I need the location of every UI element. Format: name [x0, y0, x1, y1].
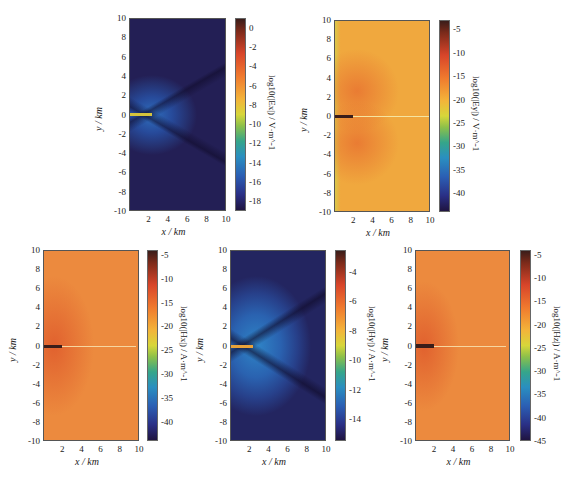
x-tick-label: 8: [483, 445, 499, 454]
y-axis-label: y / km: [379, 338, 390, 362]
y-tick-label: 6: [18, 284, 40, 293]
heatmap-hx: [43, 250, 139, 441]
y-tick-label: -6: [104, 168, 126, 177]
colorbar-ex: [235, 18, 246, 211]
colorbar-hy: [335, 250, 346, 441]
y-tick-label: -10: [18, 437, 40, 446]
y-tick-label: 0: [205, 342, 227, 351]
y-tick-label: 8: [390, 265, 412, 274]
y-tick-label: 4: [18, 303, 40, 312]
y-tick-label: 8: [18, 265, 40, 274]
colorbar-tick-label: -5: [453, 25, 461, 34]
colorbar-tick-label: -12: [249, 139, 261, 148]
y-tick-label: -4: [18, 380, 40, 389]
x-tick-label: 2: [54, 445, 70, 454]
colorbar-tick-label: -10: [249, 120, 261, 129]
x-tick-label: 10: [502, 445, 518, 454]
y-tick-label: 2: [18, 322, 40, 331]
y-tick-label: -2: [309, 131, 331, 140]
colorbar-tick-label: -18: [249, 197, 261, 206]
y-tick-label: 8: [309, 35, 331, 44]
y-tick-label: 0: [309, 112, 331, 121]
x-tick-label: 8: [403, 216, 419, 225]
x-tick-label: 6: [464, 445, 480, 454]
x-axis-label: x / km: [162, 226, 186, 237]
colorbar-tick-label: -20: [534, 321, 546, 330]
colorbar-hx: [147, 250, 158, 441]
y-tick-label: -10: [309, 208, 331, 217]
x-tick-label: 2: [140, 215, 156, 224]
colorbar-label: log10(|Ey|) / V·m^-1: [471, 76, 481, 151]
colorbar-label: log10(|Hz|) / A·m^-1: [552, 306, 562, 381]
y-tick-label: 10: [390, 246, 412, 255]
y-tick-label: -4: [205, 380, 227, 389]
y-tick-label: 4: [104, 72, 126, 81]
y-axis-label: y / km: [194, 338, 205, 362]
y-axis-label: y / km: [7, 338, 18, 362]
colorbar-tick-label: -6: [249, 82, 257, 91]
heatmap-hz: [415, 250, 510, 441]
colorbar-tick-label: -12: [349, 386, 361, 395]
y-tick-label: 8: [205, 265, 227, 274]
colorbar-tick-label: 0: [249, 24, 254, 33]
y-tick-label: 6: [309, 54, 331, 63]
y-tick-label: -8: [18, 418, 40, 427]
colorbar-tick-label: -20: [161, 322, 173, 331]
x-tick-label: 8: [299, 445, 315, 454]
y-tick-label: -4: [390, 380, 412, 389]
x-tick-label: 6: [280, 445, 296, 454]
x-tick-label: 6: [179, 215, 195, 224]
colorbar-tick-label: -15: [453, 72, 465, 81]
x-tick-label: 2: [426, 445, 442, 454]
y-tick-label: 10: [205, 246, 227, 255]
colorbar-tick-label: -15: [161, 299, 173, 308]
colorbar-tick-label: -35: [534, 390, 546, 399]
y-tick-label: -6: [309, 170, 331, 179]
colorbar-tick-label: -40: [161, 418, 173, 427]
heatmap-ex: [129, 18, 226, 211]
colorbar-tick-label: -16: [249, 178, 261, 187]
y-tick-label: 2: [390, 322, 412, 331]
y-tick-label: -2: [18, 361, 40, 370]
x-tick-label: 2: [241, 445, 257, 454]
colorbar-tick-label: -15: [534, 297, 546, 306]
y-tick-label: 2: [309, 93, 331, 102]
y-tick-label: 6: [104, 53, 126, 62]
colorbar-tick-label: -8: [249, 101, 257, 110]
y-axis-label: y / km: [298, 108, 309, 132]
x-tick-label: 4: [260, 445, 276, 454]
y-tick-label: 0: [390, 342, 412, 351]
y-tick-label: -2: [205, 361, 227, 370]
y-tick-label: -6: [18, 399, 40, 408]
x-tick-label: 10: [422, 216, 438, 225]
x-tick-label: 10: [218, 215, 234, 224]
colorbar-ey: [439, 20, 450, 212]
y-tick-label: 0: [104, 111, 126, 120]
colorbar-tick-label: -8: [349, 327, 357, 336]
y-tick-label: 10: [309, 16, 331, 25]
y-tick-label: 4: [390, 303, 412, 312]
colorbar-tick-label: -10: [453, 49, 465, 58]
y-tick-label: 2: [205, 322, 227, 331]
y-tick-label: 10: [18, 246, 40, 255]
y-tick-label: -8: [205, 418, 227, 427]
colorbar-tick-label: -5: [534, 251, 542, 260]
y-tick-label: -8: [104, 188, 126, 197]
y-tick-label: -4: [309, 150, 331, 159]
x-tick-label: 4: [445, 445, 461, 454]
y-tick-label: -10: [104, 207, 126, 216]
y-tick-label: 10: [104, 14, 126, 23]
colorbar-tick-label: -40: [453, 189, 465, 198]
colorbar-label: log10(|Hy|) / A·m^-1: [367, 306, 377, 382]
y-tick-label: 4: [205, 303, 227, 312]
x-tick-label: 8: [112, 445, 128, 454]
colorbar-tick-label: -35: [453, 166, 465, 175]
colorbar-tick-label: -4: [249, 62, 257, 71]
x-axis-label: x / km: [75, 456, 99, 467]
colorbar-tick-label: -25: [453, 119, 465, 128]
y-tick-label: -2: [104, 130, 126, 139]
colorbar-tick-label: -30: [161, 370, 173, 379]
colorbar-tick-label: -2: [249, 43, 257, 52]
colorbar-tick-label: -35: [161, 394, 173, 403]
y-tick-label: -8: [390, 418, 412, 427]
